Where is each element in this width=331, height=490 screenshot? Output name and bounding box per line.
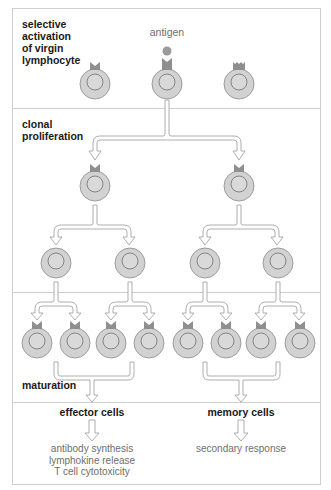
clone-cell-2a (80, 164, 110, 201)
proliferation-arrow-3c (182, 282, 232, 320)
proliferation-arrow-3d (255, 282, 305, 320)
stage-label-clonal-proliferation: clonal proliferation (22, 118, 83, 142)
memory-cells-title: memory cells (191, 406, 291, 418)
maturation-arrow-memory (203, 362, 280, 402)
clone-cell-3d (263, 248, 293, 278)
effector-cells-title: effector cells (42, 406, 142, 418)
clone-cell-2b (224, 164, 254, 201)
stage-label-selective-activation: selective activation of virgin lymphocyt… (22, 18, 80, 66)
clone-cell-3b (115, 248, 145, 278)
proliferation-arrow-2b (199, 205, 283, 245)
antigen-label: antigen (137, 27, 197, 39)
virgin-lymphocyte-1 (80, 62, 110, 99)
mature-cell-1 (22, 321, 52, 358)
memory-results: secondary response (181, 443, 301, 455)
mature-cell-6 (211, 321, 241, 358)
mature-cell-4 (134, 321, 164, 358)
effector-results: antibody synthesis lymphokine release T … (32, 443, 152, 478)
mature-cell-7 (246, 321, 276, 358)
proliferation-arrow-2a (50, 205, 135, 245)
proliferation-arrow-3a (31, 282, 81, 320)
virgin-lymphocyte-3 (224, 62, 254, 99)
mature-cell-3 (96, 321, 126, 358)
proliferation-arrow-3b (105, 282, 155, 320)
effector-outcome-arrow (85, 420, 99, 441)
antigen-icon (163, 47, 172, 56)
mature-cell-5 (173, 321, 203, 358)
virgin-lymphocyte-2-selected (152, 47, 182, 100)
stage-label-maturation: maturation (22, 379, 76, 391)
clone-cell-3c (190, 248, 220, 278)
clone-cell-3a (41, 248, 71, 278)
memory-outcome-arrow (234, 420, 248, 441)
mature-cell-8 (285, 321, 315, 358)
mature-cell-2 (60, 321, 90, 358)
